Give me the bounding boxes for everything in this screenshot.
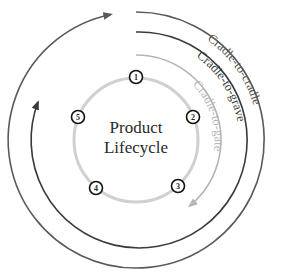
stage-marker-3: 3 (172, 180, 185, 193)
svg-text:2: 2 (191, 113, 195, 122)
stage-marker-4: 4 (90, 182, 103, 195)
stage-marker-2: 2 (187, 111, 200, 124)
product-lifecycle-diagram: Cradle-to-gate Cradle-to-grave Cradle-to… (0, 0, 285, 276)
stage-marker-1: 1 (130, 71, 143, 84)
stage-marker-5: 5 (72, 111, 85, 124)
lifecycle-svg: Cradle-to-gate Cradle-to-grave Cradle-to… (0, 0, 285, 276)
svg-text:4: 4 (94, 184, 98, 193)
svg-text:3: 3 (176, 182, 180, 191)
svg-text:5: 5 (76, 113, 80, 122)
svg-text:1: 1 (134, 73, 138, 82)
center-label-line1: Product (110, 118, 163, 137)
center-label-line2: Lifecycle (104, 138, 168, 157)
